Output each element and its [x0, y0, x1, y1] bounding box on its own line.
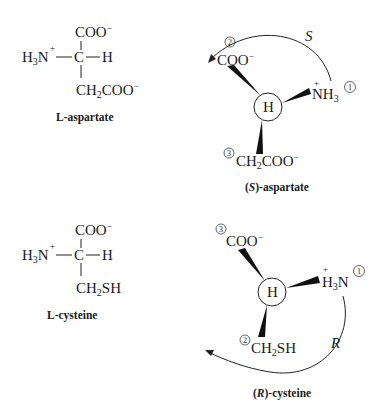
- center-h: H: [267, 284, 278, 300]
- r-cysteine-label: (R)-cysteine: [253, 387, 311, 400]
- svg-text:2: 2: [228, 38, 232, 47]
- wedge-bond-coo: [227, 65, 261, 96]
- l-aspartate-label: L-aspartate: [56, 111, 114, 124]
- group-coo: COO−: [217, 51, 254, 68]
- left-group: H3N: [22, 247, 49, 265]
- right-group: H: [102, 49, 113, 65]
- svg-text:1: 1: [357, 267, 361, 276]
- s-aspartate-wedge: S 2 COO− H NH3 + 1 3 CH2COO− (S)-asparta…: [208, 28, 356, 194]
- right-group: H: [102, 247, 113, 263]
- group-ch2sh: CH2SH: [251, 340, 296, 358]
- wedge-bond-ch2sh: [258, 305, 267, 337]
- group-ch2coo: CH2COO−: [236, 152, 299, 171]
- wedge-bond-ch2coo: [256, 120, 263, 154]
- svg-text:+: +: [323, 264, 328, 274]
- l-aspartate-fischer: COO− H3N + C H CH2COO− L-aspartate: [22, 23, 139, 124]
- svg-text:+: +: [314, 78, 319, 88]
- svg-text:2: 2: [243, 336, 247, 345]
- rotation-arrow-r: [208, 296, 345, 373]
- bottom-group: CH2SH: [76, 280, 121, 298]
- r-cysteine-wedge: 3 COO− H H3N + 1 2 CH2SH R (R)-cysteine: [205, 224, 365, 400]
- l-cysteine-fischer: COO− H3N + C H CH2SH L-cysteine: [22, 221, 121, 322]
- wedge-bond-coo: [238, 248, 265, 281]
- center-carbon: C: [74, 247, 84, 263]
- plus-charge: +: [50, 43, 55, 53]
- l-cysteine-label: L-cysteine: [47, 309, 97, 322]
- stereochemistry-diagram: COO− H3N + C H CH2COO− L-aspartate S 2 C…: [0, 0, 385, 408]
- arrowhead-icon: [205, 350, 214, 356]
- svg-text:3: 3: [219, 225, 223, 234]
- center-carbon: C: [74, 49, 84, 65]
- svg-text:3: 3: [227, 149, 231, 158]
- top-group: COO−: [75, 221, 112, 238]
- wedge-bond-h3n: [286, 276, 320, 288]
- svg-text:1: 1: [348, 83, 352, 92]
- top-group: COO−: [75, 23, 112, 40]
- wedge-bond-nh3: [282, 88, 311, 103]
- group-nh3: NH3: [312, 86, 339, 104]
- group-coo: COO−: [226, 232, 263, 249]
- group-h3n: H3N: [322, 274, 349, 292]
- bottom-group: CH2COO−: [76, 81, 139, 100]
- rotation-label-r: R: [330, 335, 340, 351]
- left-group: H3N: [22, 49, 49, 67]
- plus-charge: +: [50, 241, 55, 251]
- rotation-label-s: S: [305, 28, 313, 44]
- center-h: H: [263, 99, 274, 115]
- s-aspartate-label: (S)-aspartate: [245, 181, 309, 194]
